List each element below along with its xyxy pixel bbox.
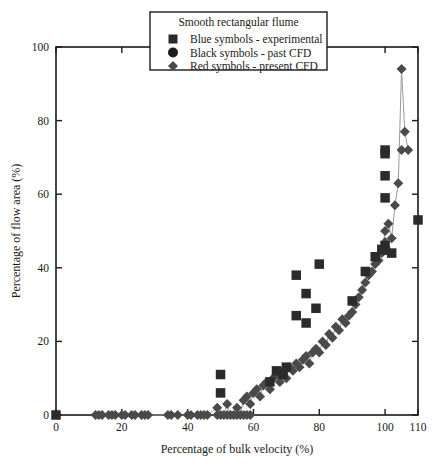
point-square [387,248,397,258]
point-square [380,193,390,203]
y-axis-title: Percentage of flow area (%) [9,164,23,299]
point-square [413,215,423,225]
axis-ticks [56,47,418,415]
legend-entry-label: Red symbols - present CFD [190,60,318,73]
point-square [301,318,311,328]
point-square [216,370,226,380]
x-tick-label: 80 [314,421,326,433]
point-square [291,270,301,280]
point-diamond [393,178,403,188]
point-diamond [173,410,183,420]
point-diamond [397,64,407,74]
chart-figure: 020406080100110020406080100 Percentage o… [0,0,443,466]
plot-axes [56,47,418,415]
point-square [361,267,371,277]
point-square [282,362,292,372]
x-tick-label: 110 [410,421,427,433]
point-diamond [222,399,232,409]
axis-tick-labels: 020406080100110020406080100 [32,41,427,433]
point-square [265,377,275,387]
point-square [347,296,357,306]
x-tick-label: 60 [248,421,260,433]
y-tick-label: 60 [38,188,50,200]
x-axis-title: Percentage of bulk velocity (%) [161,442,314,456]
trend-line [96,69,409,415]
point-square [291,311,301,321]
y-tick-label: 80 [38,115,50,127]
legend-entry-label: Black symbols - past CFD [190,47,311,60]
legend-entry-label: Blue symbols - experimental [190,33,323,46]
point-square [311,304,321,314]
legend-marker-square [169,35,178,44]
data-points [51,64,423,420]
trend-polyline [96,69,409,415]
legend-marker-circle [168,48,178,58]
point-diamond [400,127,410,137]
y-tick-label: 100 [32,41,50,53]
chart-legend: Smooth rectangular flumeBlue symbols - e… [150,12,327,73]
y-tick-label: 20 [38,335,50,347]
point-square [301,289,311,299]
point-square [51,410,61,420]
legend-title: Smooth rectangular flume [178,16,298,29]
x-tick-label: 40 [182,421,194,433]
scatter-plot: 020406080100110020406080100 Percentage o… [0,0,443,466]
x-tick-label: 100 [376,421,394,433]
point-diamond [390,200,400,210]
y-tick-label: 0 [43,409,49,421]
x-tick-label: 20 [116,421,128,433]
point-square [216,388,226,398]
point-diamond [403,145,413,155]
plot-frame [56,47,418,415]
point-square [315,259,325,269]
y-tick-label: 40 [38,262,50,274]
point-square [380,171,390,181]
point-square [380,145,390,155]
x-tick-label: 0 [53,421,59,433]
